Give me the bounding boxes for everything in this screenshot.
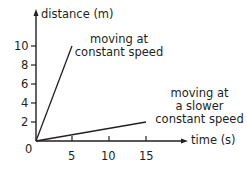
x-ticks — [72, 136, 146, 141]
x-tick-label-10: 10 — [101, 150, 116, 162]
series-slow-line — [36, 122, 146, 141]
x-tick-label-5: 5 — [68, 150, 75, 162]
annotation-fast: moving at constant speed — [74, 33, 164, 59]
x-axis-label: time (s) — [191, 134, 236, 147]
annotation-slow: moving at a slower constant speed — [152, 87, 247, 126]
annotation-slow-line3: constant speed — [152, 113, 247, 126]
y-tick-label-2: 2 — [21, 116, 28, 128]
y-tick-label-8: 8 — [21, 59, 28, 71]
series-fast-line — [36, 46, 72, 141]
x-tick-label-15: 15 — [139, 150, 154, 162]
annotation-fast-line2: constant speed — [74, 46, 164, 59]
y-tick-label-4: 4 — [21, 97, 28, 109]
y-axis-arrow-icon — [34, 9, 39, 16]
y-ticks — [31, 46, 36, 122]
y-tick-label-10: 10 — [14, 40, 29, 52]
y-axis-label: distance (m) — [41, 8, 114, 21]
y-tick-label-6: 6 — [21, 78, 28, 90]
origin-label: 0 — [25, 143, 32, 155]
x-axis-arrow-icon — [181, 139, 188, 144]
